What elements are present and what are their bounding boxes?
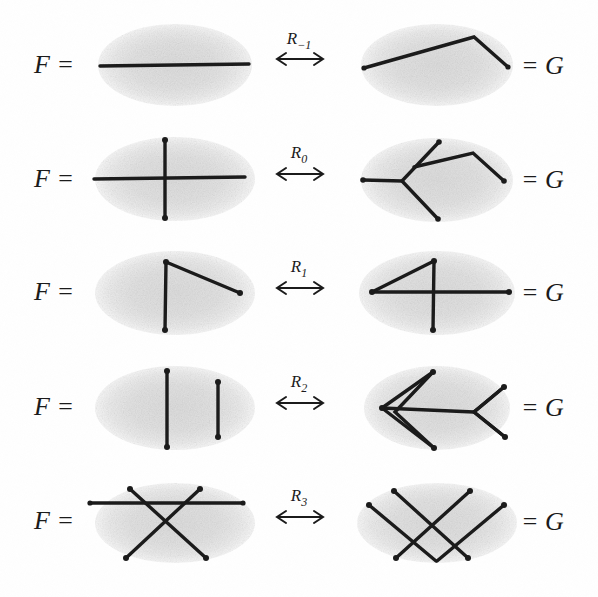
row5-endpoint bbox=[393, 555, 399, 561]
row5-endpoint bbox=[465, 555, 471, 561]
row5-endpoint bbox=[123, 555, 129, 561]
row4-endpoint bbox=[215, 434, 221, 440]
row5-left-label: F = bbox=[33, 506, 74, 535]
row5-endpoint bbox=[366, 502, 372, 508]
row1-endpoint bbox=[361, 65, 366, 70]
row2-left-label: F = bbox=[33, 164, 74, 193]
row3-endpoint bbox=[162, 327, 168, 333]
row3-endpoint bbox=[430, 327, 436, 333]
row2-right-label: = G bbox=[521, 165, 564, 194]
row4-endpoint bbox=[164, 444, 170, 450]
row2-endpoint bbox=[436, 139, 442, 145]
row5-endpoint bbox=[203, 555, 209, 561]
row5-endpoint bbox=[87, 500, 92, 505]
row2-endpoint bbox=[435, 216, 441, 222]
row1-left-label: F = bbox=[33, 50, 74, 79]
row2-endpoint bbox=[162, 137, 168, 143]
row2-endpoint bbox=[501, 178, 507, 184]
row5-endpoint bbox=[391, 488, 397, 494]
row4-endpoint bbox=[164, 368, 170, 374]
row5-endpoint bbox=[240, 500, 245, 505]
figure-canvas: F = R−1 = G F = bbox=[0, 0, 598, 597]
row3-endpoint bbox=[369, 289, 375, 295]
row3-endpoint bbox=[431, 258, 437, 264]
row5-endpoint bbox=[501, 502, 507, 508]
row1-left-diagram bbox=[100, 64, 249, 66]
row4-left-label: F = bbox=[33, 392, 74, 421]
row4-endpoint bbox=[379, 405, 385, 411]
row2-endpoint bbox=[162, 215, 168, 221]
row3-left-label: F = bbox=[33, 277, 74, 306]
row3-endpoint bbox=[506, 289, 512, 295]
row4-endpoint bbox=[431, 445, 437, 451]
row5-right-label: = G bbox=[521, 507, 564, 536]
row3-endpoint bbox=[237, 290, 243, 296]
row5-endpoint bbox=[467, 488, 473, 494]
row4-left-blob bbox=[95, 366, 255, 450]
row1-right-label: = G bbox=[521, 51, 564, 80]
row5-left-blob bbox=[95, 483, 255, 563]
row3-endpoint bbox=[163, 259, 169, 265]
reidemeister-moves-figure: F = R−1 = G F = bbox=[0, 0, 598, 597]
row3-right-label: = G bbox=[521, 278, 564, 307]
row4-endpoint bbox=[502, 434, 508, 440]
row4-endpoint bbox=[430, 369, 436, 375]
row1-endpoint bbox=[505, 64, 510, 69]
row3-left-blob bbox=[95, 251, 255, 335]
row5-endpoint bbox=[197, 486, 203, 492]
row4-endpoint bbox=[501, 384, 507, 390]
row4-right-label: = G bbox=[521, 393, 564, 422]
row4-endpoint bbox=[215, 379, 221, 385]
row2-endpoint bbox=[360, 177, 366, 183]
row5-endpoint bbox=[127, 486, 133, 492]
row1-right-blob bbox=[361, 24, 513, 106]
